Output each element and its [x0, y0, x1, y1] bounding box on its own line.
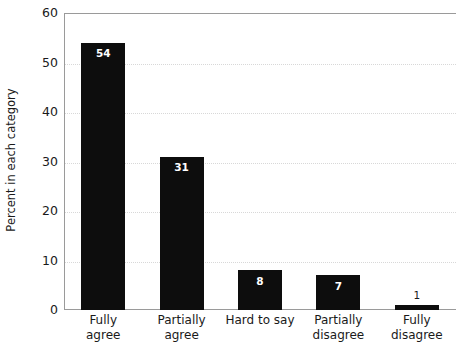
y-tick-label: 60: [6, 7, 58, 20]
x-axis-labels: FullyagreePartiallyagreeHard to sayParti…: [64, 313, 456, 350]
bar-slot: 54: [81, 13, 125, 310]
x-tick-label-line: agree: [134, 328, 228, 343]
bar-slot: 1: [395, 13, 439, 310]
bar-value-label: 7: [316, 281, 360, 292]
bars-layer: 5431871: [64, 13, 456, 310]
bar-value-label: 8: [238, 276, 282, 287]
y-tick-label: 20: [6, 205, 58, 218]
bar[interactable]: [81, 43, 125, 310]
bar-slot: 31: [160, 13, 204, 310]
bar-chart: Percent in each category 0102030405060 5…: [0, 0, 463, 350]
bar-slot: 7: [316, 13, 360, 310]
bar-value-label: 1: [395, 290, 439, 301]
x-tick-label-line: Fully: [370, 313, 463, 328]
y-tick-label: 10: [6, 254, 58, 267]
bar-slot: 8: [238, 13, 282, 310]
x-tick-label-line: disagree: [370, 328, 463, 343]
y-tick-label: 50: [6, 56, 58, 69]
y-axis-ticks: 0102030405060: [0, 0, 58, 350]
bar[interactable]: [395, 305, 439, 310]
y-tick-label: 30: [6, 155, 58, 168]
y-tick-label: 40: [6, 106, 58, 119]
bar-value-label: 54: [81, 48, 125, 59]
bar[interactable]: [160, 157, 204, 310]
bar-value-label: 31: [160, 162, 204, 173]
x-tick-label: Fullydisagree: [370, 313, 463, 343]
y-tick-label: 0: [6, 304, 58, 317]
